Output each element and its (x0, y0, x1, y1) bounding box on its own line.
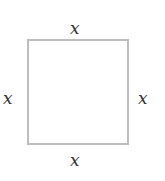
side-label-bottom: x (70, 152, 80, 169)
side-label-top: x (70, 20, 80, 37)
square-shape (27, 39, 129, 145)
side-label-right: x (138, 90, 148, 107)
side-label-left: x (3, 90, 13, 107)
diagram-canvas: x x x x (0, 0, 165, 181)
